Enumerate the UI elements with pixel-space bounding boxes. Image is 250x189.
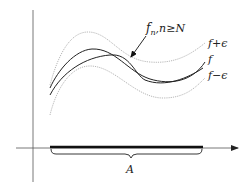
label-f: f	[207, 53, 214, 66]
curve-f-plus-epsilon	[50, 32, 205, 85]
label-f-minus-epsilon: f−ϵ	[207, 69, 227, 82]
label-f-plus-epsilon: f+ϵ	[207, 37, 227, 50]
label-fn: fn,n≥N	[145, 21, 185, 37]
convergence-diagram: fn,n≥N f+ϵ f f−ϵ A	[0, 0, 250, 189]
curve-f-n	[50, 55, 203, 95]
fn-pointer-arrow	[131, 36, 146, 57]
interval-A-brace	[51, 149, 202, 158]
curve-f-minus-epsilon	[50, 66, 205, 115]
label-set-A: A	[125, 163, 134, 176]
